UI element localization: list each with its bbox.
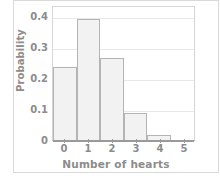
x-tick-mark-2: [112, 139, 113, 143]
bar-category-0: [53, 67, 77, 140]
x-tick-mark-0: [64, 139, 65, 143]
x-tick-text-4: 4: [157, 143, 164, 154]
bar-slot-1: [77, 7, 101, 140]
x-tick-mark-3: [136, 139, 137, 143]
bar-series: [53, 7, 194, 140]
y-tick-label-0: 0: [24, 136, 48, 146]
y-axis-tick-labels: 0 0.1 0.2 0.3 0.4: [22, 0, 48, 184]
x-tick-mark-5: [184, 139, 185, 143]
bar-slot-0: [53, 7, 77, 140]
x-tick-text-0: 0: [61, 143, 68, 154]
x-tick-label-3: 3: [126, 143, 146, 155]
x-tick-label-2: 2: [102, 143, 122, 155]
histogram-figure: Probability 0 0.1 0.2 0.3 0.4: [0, 0, 220, 184]
x-axis-title: Number of hearts: [13, 158, 219, 170]
bar-category-4: [147, 135, 171, 140]
y-tick-label-3: 0.3: [24, 43, 48, 53]
x-tick-label-1: 1: [78, 143, 98, 155]
x-tick-text-2: 2: [109, 143, 116, 154]
x-tick-mark-1: [88, 139, 89, 143]
x-tick-text-5: 5: [181, 143, 188, 154]
bar-slot-5: [171, 7, 195, 140]
y-tick-label-2: 0.2: [24, 74, 48, 84]
plot-area: [52, 6, 195, 141]
bar-category-2: [100, 58, 124, 140]
x-tick-label-5: 5: [174, 143, 194, 155]
y-tick-label-1: 0.1: [24, 105, 48, 115]
x-tick-label-4: 4: [150, 143, 170, 155]
x-axis-tick-labels: 0 1 2 3 4 5: [52, 143, 195, 157]
gridline-0: [53, 141, 194, 142]
bar-slot-2: [100, 7, 124, 140]
bar-category-3: [124, 113, 148, 140]
x-tick-mark-4: [160, 139, 161, 143]
bar-slot-4: [147, 7, 171, 140]
x-tick-text-3: 3: [133, 143, 140, 154]
bar-category-1: [77, 19, 101, 140]
y-tick-label-4: 0.4: [24, 12, 48, 22]
x-tick-label-0: 0: [54, 143, 74, 155]
x-tick-text-1: 1: [85, 143, 92, 154]
bar-slot-3: [124, 7, 148, 140]
